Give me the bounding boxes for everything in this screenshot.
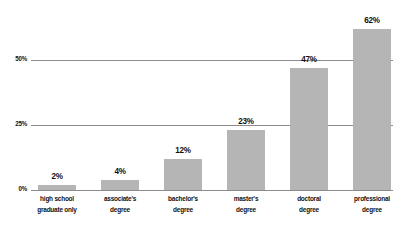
ytick-label-50: 50%: [3, 55, 27, 62]
category-label-high-school-graduate-only: high school graduate only: [29, 194, 84, 215]
bar-high-school-graduate-only[interactable]: [38, 185, 76, 190]
bar-value-masters-degree: 23%: [223, 116, 270, 126]
gridline-50: [31, 60, 393, 61]
bar-masters-degree[interactable]: [227, 130, 265, 190]
bar-bachelors-degree[interactable]: [164, 159, 202, 190]
axis-baseline: [31, 190, 393, 191]
category-label-associates-degree: associate's degree: [92, 194, 147, 215]
plot-area: 50% 25% 0% 2% high school graduate only …: [0, 0, 404, 235]
gridline-25: [31, 125, 393, 126]
category-label-masters-degree: master's degree: [218, 194, 273, 215]
bar-professional-degree[interactable]: [353, 29, 391, 190]
bar-value-bachelors-degree: 12%: [160, 145, 207, 155]
ytick-label-25: 25%: [3, 120, 27, 127]
category-label-doctoral-degree: doctoral degree: [281, 194, 336, 215]
category-label-professional-degree: professional degree: [344, 194, 399, 215]
bar-value-associates-degree: 4%: [97, 166, 144, 176]
bar-value-high-school-graduate-only: 2%: [34, 171, 81, 181]
bar-value-doctoral-degree: 47%: [286, 54, 333, 64]
bar-doctoral-degree[interactable]: [290, 68, 328, 190]
ytick-label-0: 0%: [3, 185, 27, 192]
bar-chart: 50% 25% 0% 2% high school graduate only …: [0, 0, 404, 235]
category-label-bachelors-degree: bachelor's degree: [155, 194, 210, 215]
bar-value-professional-degree: 62%: [349, 15, 396, 25]
bar-associates-degree[interactable]: [101, 180, 139, 190]
